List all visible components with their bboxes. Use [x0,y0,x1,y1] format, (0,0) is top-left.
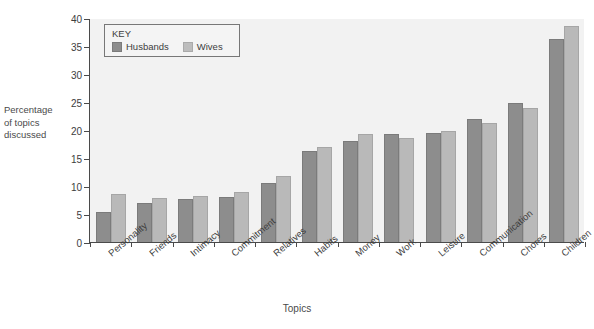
y-axis-tick-label: 30 [56,70,82,81]
y-axis-tick-label: 20 [56,126,82,137]
bar-group [544,19,585,242]
bar-group [338,19,379,242]
legend-label-husbands: Husbands [126,41,169,52]
bar-husbands [426,133,441,242]
bar-group [379,19,420,242]
bar-husbands [96,212,111,242]
x-axis-tick [90,242,91,247]
bar-group [255,19,296,242]
y-axis-tick-label: 10 [56,182,82,193]
bar-group [503,19,544,242]
legend-swatch-wives [183,42,193,52]
legend-swatch-husbands [112,42,122,52]
bar-wives [482,123,497,242]
bar-husbands [178,199,193,242]
x-axis-title: Topics [0,303,594,314]
x-axis-tick [420,242,421,247]
bar-wives [276,176,291,242]
y-axis-tick-label: 25 [56,98,82,109]
y-axis-tick-label: 35 [56,42,82,53]
bar-husbands [343,141,358,242]
bar-wives [317,147,332,242]
x-axis-tick [379,242,380,247]
legend-item-husbands: Husbands [112,41,169,52]
bar-wives [441,131,456,242]
y-axis-tick-label: 15 [56,154,82,165]
y-axis-tick-label: 0 [56,238,82,249]
legend: KEY Husbands Wives [104,24,240,57]
x-axis-tick [255,242,256,247]
bar-wives [564,26,579,242]
legend-item-wives: Wives [183,41,223,52]
y-axis-tick-label: 5 [56,210,82,221]
x-axis-tick [544,242,545,247]
x-axis-tick [214,242,215,247]
legend-title: KEY [112,28,239,39]
bar-group [461,19,502,242]
bar-group [420,19,461,242]
bar-husbands [549,39,564,242]
bar-wives [399,138,414,242]
legend-label-wives: Wives [197,41,223,52]
bar-group [296,19,337,242]
bar-chart: Percentage of topics discussed 051015202… [0,0,594,329]
bar-wives [358,134,373,242]
bar-husbands [384,134,399,242]
x-axis-tick [585,242,586,247]
y-axis-tick-label: 40 [56,14,82,25]
bar-husbands [467,119,482,242]
